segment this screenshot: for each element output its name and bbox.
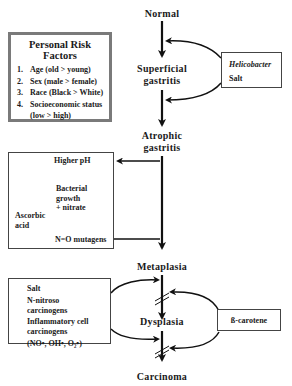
item-number: 4.	[17, 99, 30, 122]
item-number: 1.	[17, 64, 30, 76]
risk-factors-title: Personal Risk Factors	[11, 39, 109, 61]
higher-ph-label: Higher pH	[54, 156, 91, 166]
stage-label-line2: gastritis	[122, 75, 202, 87]
bacterial-growth-label: Bacterial growth + nitrate	[56, 184, 87, 213]
ascorbic-acid-label: Ascorbic acid	[15, 211, 45, 230]
no-mutagens-label: N=O mutagens	[55, 235, 106, 245]
item-text: Socioeconomic status	[30, 99, 102, 111]
risk-factor-item: 2.Sex (male > female)	[17, 76, 109, 88]
item-text-continued: (low > high)	[30, 110, 102, 122]
carotene-box: ß-carotene	[217, 309, 281, 331]
item-text: Race (Black > White)	[30, 87, 103, 99]
stage-carcinoma: Carcinoma	[122, 371, 202, 383]
stage-label-line1: Atrophic	[122, 130, 202, 142]
mutagen-box: Higher pH Bacterial growth + nitrate Asc…	[8, 152, 114, 249]
line: N-nitroso	[27, 296, 67, 306]
risk-factors-list: 1.Age (old > young) 2.Sex (male > female…	[17, 64, 109, 122]
stage-label-line2: gastritis	[122, 142, 202, 154]
stage-atrophic-gastritis: Atrophic gastritis	[122, 130, 202, 154]
carcinogen-box: Salt N-nitroso carcinogens Inflammatory …	[8, 278, 111, 344]
risk-factor-item: 1.Age (old > young)	[17, 64, 109, 76]
stage-dysplasia: Dysplasia	[122, 316, 202, 328]
line: + nitrate	[56, 203, 87, 213]
item-text: Age (old > young)	[30, 64, 91, 76]
line: acid	[15, 221, 45, 231]
line: carcinogens	[27, 327, 89, 337]
stage-metaplasia: Metaplasia	[122, 261, 202, 273]
stage-superficial-gastritis: Superficial gastritis	[122, 63, 202, 87]
stage-normal: Normal	[132, 8, 192, 20]
item-text: Sex (male > female)	[30, 76, 97, 88]
helicobacter-label: Helicobacter	[229, 60, 281, 70]
risk-factor-item: 4.Socioeconomic status(low > high)	[17, 99, 109, 122]
helicobacter-box: Helicobacter Salt	[221, 52, 282, 88]
line: Inflammatory cell	[27, 317, 89, 327]
risk-factors-box: Personal Risk Factors 1.Age (old > young…	[8, 32, 112, 122]
line: Ascorbic	[15, 211, 45, 221]
item-number: 3.	[17, 87, 30, 99]
line: carcinogens	[27, 306, 67, 316]
radicals-label: (NO•, OH•, O₂•)	[27, 339, 82, 349]
line: Bacterial	[56, 184, 87, 194]
salt-label: Salt	[229, 74, 281, 84]
item-number: 2.	[17, 76, 30, 88]
carotene-label: ß-carotene	[218, 316, 280, 326]
stage-label-line1: Superficial	[122, 63, 202, 75]
nitroso-label: N-nitroso carcinogens	[27, 296, 67, 315]
risk-factor-item: 3.Race (Black > White)	[17, 87, 109, 99]
inflammatory-label: Inflammatory cell carcinogens	[27, 317, 89, 336]
line: growth	[56, 194, 87, 204]
salt-label: Salt	[27, 284, 40, 294]
